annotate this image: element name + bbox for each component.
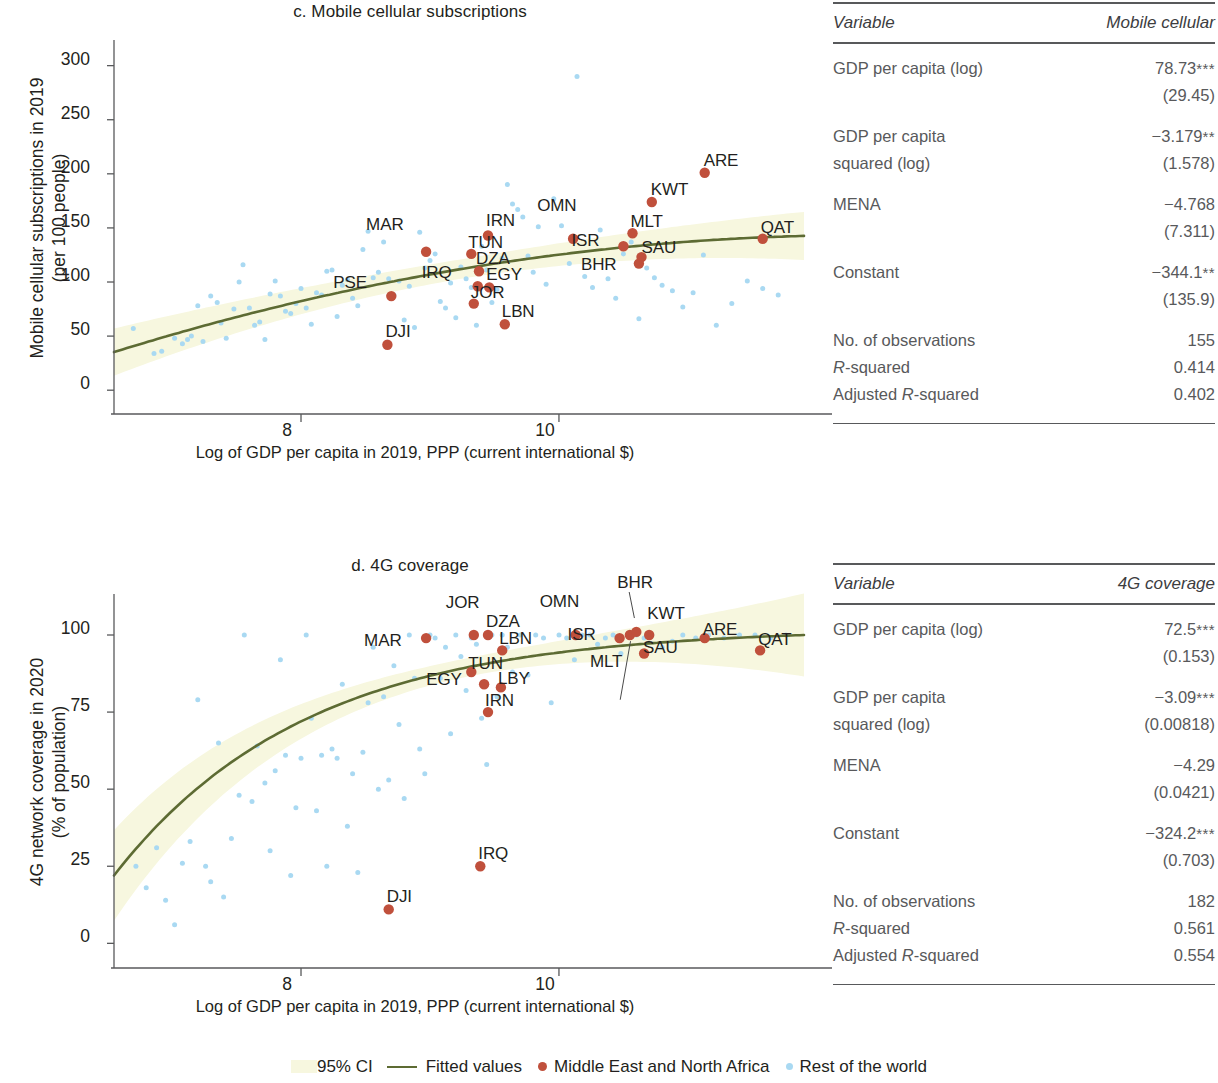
chart-panel-4g-coverage: d. 4G coverage 4G network coverage in 20…: [0, 552, 820, 1032]
point-label-d-dji: DJI: [387, 887, 412, 907]
y-tick-c-150: 150: [38, 211, 90, 232]
x-tick-d-10: 10: [515, 974, 575, 995]
point-label-d-kwt: KWT: [647, 604, 684, 624]
row-coefficient: −344.1**: [1102, 262, 1215, 289]
stat-value: 0.402: [1102, 384, 1215, 411]
x-axis-label-c: Log of GDP per capita in 2019, PPP (curr…: [20, 443, 810, 462]
legend-label-rest-of-world: Rest of the world: [800, 1057, 928, 1077]
stat-value: 0.554: [1093, 945, 1215, 972]
table-row-se: (135.9): [833, 289, 1215, 316]
legend-item-fitted: Fitted values: [373, 1057, 522, 1077]
row-label: Constant: [833, 262, 1102, 289]
legend-item-rest-of-world: Rest of the world: [770, 1057, 928, 1077]
row-standard-error: (0.0421): [1093, 782, 1215, 809]
row-label: GDP per capita: [833, 687, 1093, 714]
row-standard-error: (29.45): [1102, 85, 1215, 112]
point-label-c-omn: OMN: [537, 196, 576, 216]
col-header-variable: Variable: [833, 4, 971, 42]
row-coefficient: −4.29: [1093, 755, 1215, 782]
row-coefficient: 72.5***: [1093, 619, 1215, 646]
point-label-c-irn: IRN: [486, 211, 515, 231]
x-tick-c-10: 10: [515, 420, 575, 441]
row-standard-error: (0.703): [1093, 850, 1215, 877]
fitted-line-swatch-icon: [387, 1066, 417, 1068]
row-coefficient: 78.73***: [1102, 58, 1215, 85]
row-label: MENA: [833, 755, 1093, 782]
stat-value: 0.414: [1102, 357, 1215, 384]
row-label-cont: squared (log): [833, 153, 1102, 180]
table-header-row: Variable4G coverage: [833, 565, 1215, 603]
table-stat-row: No. of observations155: [833, 330, 1215, 357]
y-tick-c-0: 0: [38, 373, 90, 394]
x-tick-d-8: 8: [257, 974, 317, 995]
table-row: GDP per capita (log)72.5***: [833, 619, 1215, 646]
mena-dot-icon: [538, 1062, 547, 1071]
chart-panel-mobile-cellular: c. Mobile cellular subscriptions Mobile …: [0, 0, 820, 480]
point-label-d-lby: LBY: [498, 669, 530, 689]
col-header-value: Mobile cellular: [971, 4, 1215, 42]
point-label-d-isr: ISR: [568, 625, 596, 645]
point-label-c-mar: MAR: [366, 215, 403, 235]
legend-label-ci: 95% CI: [317, 1057, 373, 1077]
point-label-d-bhr: BHR: [617, 573, 653, 593]
row-standard-error: (7.311): [1102, 221, 1215, 248]
table-stat-row: Adjusted R-squared0.402: [833, 384, 1215, 411]
point-label-d-qat: QAT: [758, 630, 791, 650]
row-standard-error: (0.00818): [1093, 714, 1215, 741]
row-label-cont: [833, 850, 1093, 877]
point-label-d-lbn: LBN: [499, 629, 532, 649]
row-label-cont: squared (log): [833, 714, 1093, 741]
row-label: GDP per capita (log): [833, 58, 1102, 85]
row-label: MENA: [833, 194, 1102, 221]
y-tick-c-300: 300: [38, 49, 90, 70]
figure-legend: 95% CI Fitted values Middle East and Nor…: [0, 1050, 1218, 1083]
table-row-se: squared (log)(1.578): [833, 153, 1215, 180]
point-label-c-sau: SAU: [641, 238, 676, 258]
stat-value: 155: [1102, 330, 1215, 357]
chart-title-d: d. 4G coverage: [0, 556, 820, 576]
point-label-c-irq: IRQ: [422, 263, 452, 283]
table-row: MENA−4.768: [833, 194, 1215, 221]
table-row: Constant−324.2***: [833, 823, 1215, 850]
row-standard-error: (135.9): [1102, 289, 1215, 316]
chart-title-c: c. Mobile cellular subscriptions: [0, 2, 820, 22]
row-label-cont: [833, 646, 1093, 673]
row-coefficient: −3.09***: [1093, 687, 1215, 714]
legend-item-ci: 95% CI: [291, 1057, 373, 1077]
row-coefficient: −4.768: [1102, 194, 1215, 221]
table-stat-row: No. of observations182: [833, 891, 1215, 918]
stat-value: 0.561: [1093, 918, 1215, 945]
point-label-c-isr: ISR: [571, 231, 599, 251]
table-stat-row: R-squared0.561: [833, 918, 1215, 945]
legend-label-fitted: Fitted values: [426, 1057, 522, 1077]
y-tick-d-100: 100: [38, 618, 90, 639]
ci-band-swatch-icon: [291, 1060, 317, 1073]
point-label-d-irq: IRQ: [478, 844, 508, 864]
x-tick-c-8: 8: [257, 420, 317, 441]
table-header-row: VariableMobile cellular: [833, 4, 1215, 42]
table-row: GDP per capita−3.09***: [833, 687, 1215, 714]
row-label-cont: [833, 782, 1093, 809]
y-tick-d-25: 25: [38, 849, 90, 870]
point-label-d-mar: MAR: [364, 631, 401, 651]
table-rule-bottom: [833, 984, 1215, 985]
point-label-c-lbn: LBN: [502, 302, 535, 322]
col-header-value: 4G coverage: [981, 565, 1215, 603]
point-label-d-are: ARE: [703, 620, 738, 640]
rest-of-world-dot-icon: [786, 1063, 793, 1070]
col-header-variable: Variable: [833, 565, 981, 603]
x-axis-label-d: Log of GDP per capita in 2019, PPP (curr…: [20, 997, 810, 1016]
row-coefficient: −324.2***: [1093, 823, 1215, 850]
point-label-c-are: ARE: [704, 151, 739, 171]
plot-area-d: [100, 592, 790, 962]
row-coefficient: −3.179**: [1102, 126, 1215, 153]
plot-area-c: [100, 38, 790, 408]
row-standard-error: (0.153): [1093, 646, 1215, 673]
table-row-se: (0.153): [833, 646, 1215, 673]
point-label-d-omn: OMN: [540, 592, 579, 612]
point-label-c-jor: JOR: [471, 283, 505, 303]
legend-item-mena: Middle East and North Africa: [522, 1057, 769, 1077]
stat-label: No. of observations: [833, 891, 1093, 918]
table-stat-row: Adjusted R-squared0.554: [833, 945, 1215, 972]
point-label-d-irn: IRN: [485, 691, 514, 711]
